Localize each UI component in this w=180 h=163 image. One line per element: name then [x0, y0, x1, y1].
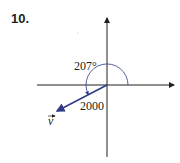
magnitude-label: 2000: [80, 99, 104, 113]
angle-label: 207°: [74, 59, 97, 73]
speck: [77, 32, 78, 33]
vector-diagram: 207° 2000 v: [0, 0, 180, 163]
